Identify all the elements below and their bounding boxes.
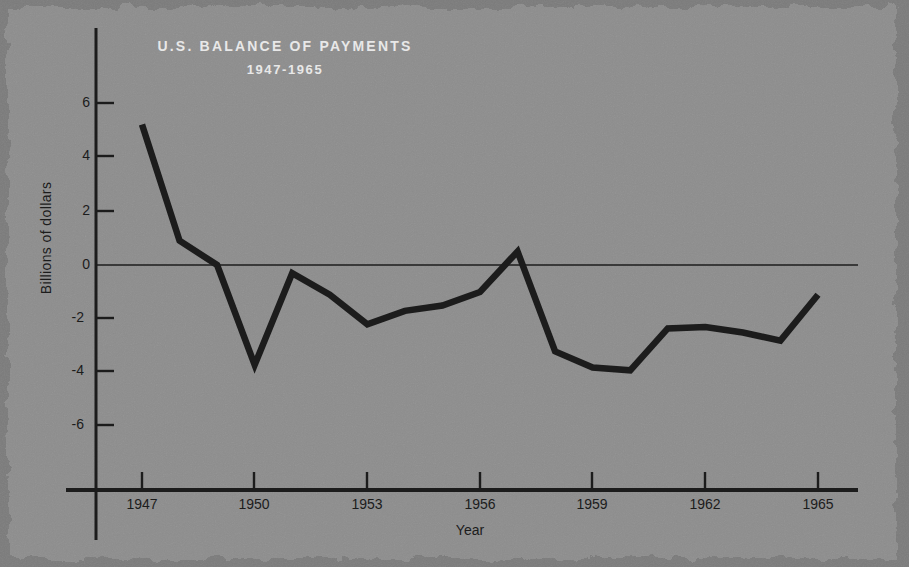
y-axis-title: Billions of dollars xyxy=(38,168,54,308)
x-axis-title: Year xyxy=(430,522,510,538)
chart-figure: U.S. BALANCE OF PAYMENTS 1947-1965 Billi… xyxy=(0,0,909,567)
x-tick-label: 1959 xyxy=(562,496,622,512)
y-tick-label: -6 xyxy=(50,416,84,432)
x-tick-label: 1956 xyxy=(450,496,510,512)
paper-grain xyxy=(0,0,909,567)
x-tick-label: 1953 xyxy=(337,496,397,512)
y-tick-label: -2 xyxy=(50,309,84,325)
y-tick-label: 6 xyxy=(56,94,90,110)
x-tick-label: 1962 xyxy=(675,496,735,512)
x-tick-label: 1950 xyxy=(224,496,284,512)
chart-title: U.S. BALANCE OF PAYMENTS xyxy=(140,38,430,54)
plot-area xyxy=(0,0,909,567)
chart-subtitle: 1947-1965 xyxy=(140,62,430,77)
y-tick-label: -4 xyxy=(50,362,84,378)
x-tick-label: 1965 xyxy=(788,496,848,512)
y-tick-label: 0 xyxy=(56,256,90,272)
x-tick-label: 1947 xyxy=(112,496,172,512)
y-tick-label: 4 xyxy=(56,147,90,163)
y-tick-label: 2 xyxy=(56,202,90,218)
